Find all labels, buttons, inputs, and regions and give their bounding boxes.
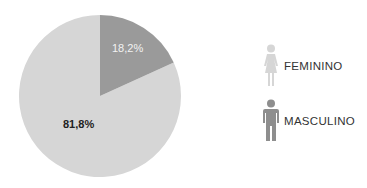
male-person-icon — [262, 99, 280, 143]
legend-label-feminino: FEMININO — [284, 60, 343, 72]
slice-label-masculino: 18,2% — [112, 42, 143, 54]
legend-label-masculino: MASCULINO — [284, 115, 355, 127]
legend-item-masculino: MASCULINO — [262, 99, 355, 143]
slice-label-feminino: 81,8% — [63, 118, 94, 130]
female-person-icon — [262, 44, 280, 88]
legend-item-feminino: FEMININO — [262, 44, 343, 88]
pie-chart — [0, 0, 200, 188]
